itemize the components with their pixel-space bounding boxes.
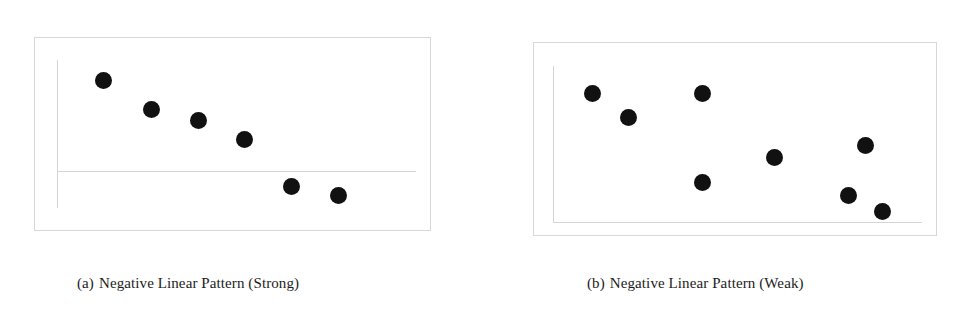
data-point: [143, 101, 160, 118]
caption-text-b: Negative Linear Pattern (Weak): [610, 275, 804, 291]
y-axis-line-b: [553, 66, 554, 223]
figure-root: (a)Negative Linear Pattern (Strong) (b)N…: [0, 0, 968, 325]
caption-panel-b: (b)Negative Linear Pattern (Weak): [587, 274, 804, 292]
data-point: [330, 187, 347, 204]
caption-text-a: Negative Linear Pattern (Strong): [99, 275, 299, 291]
caption-tag-b: (b): [587, 275, 605, 291]
y-axis-line-a: [57, 60, 58, 208]
data-point: [190, 112, 207, 129]
data-point: [874, 203, 891, 220]
x-axis-line-b: [553, 222, 922, 223]
data-point: [95, 72, 112, 89]
data-point: [857, 137, 874, 154]
data-point: [236, 131, 253, 148]
x-axis-line-a: [57, 171, 416, 172]
data-point: [694, 174, 711, 191]
data-point: [620, 109, 637, 126]
scatter-panel-b: (b)Negative Linear Pattern (Weak): [484, 0, 968, 325]
caption-panel-a: (a)Negative Linear Pattern (Strong): [77, 274, 299, 292]
data-point: [283, 178, 300, 195]
data-point: [694, 85, 711, 102]
data-point: [766, 149, 783, 166]
scatter-panel-a: (a)Negative Linear Pattern (Strong): [0, 0, 484, 325]
plot-frame-a: [34, 37, 431, 231]
caption-tag-a: (a): [77, 275, 94, 291]
data-point: [584, 85, 601, 102]
data-point: [840, 187, 857, 204]
